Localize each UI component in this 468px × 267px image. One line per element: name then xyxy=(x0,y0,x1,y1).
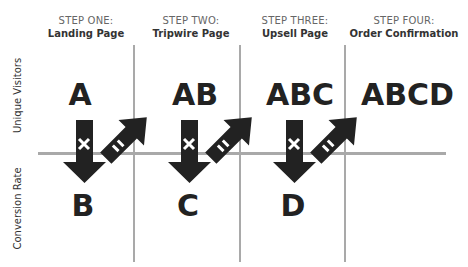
equals-arrow-up-right-icon xyxy=(303,104,369,170)
equals-arrow-up-right-icon xyxy=(198,104,264,170)
multiply-arrow-down-icon xyxy=(273,120,316,183)
multiply-arrow-down-icon xyxy=(168,120,211,183)
equals-arrow-up-right-icon xyxy=(93,104,159,170)
flow-arrows xyxy=(0,0,468,267)
multiply-arrow-down-icon xyxy=(63,120,106,183)
